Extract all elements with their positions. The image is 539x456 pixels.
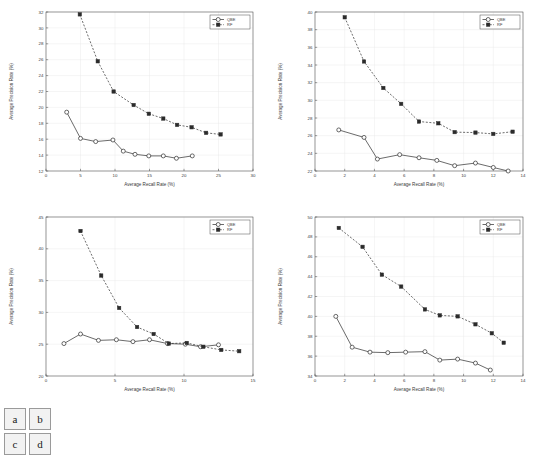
svg-text:32: 32 [39, 10, 44, 15]
svg-text:16: 16 [39, 137, 44, 142]
svg-text:12: 12 [491, 173, 496, 178]
svg-text:RF: RF [227, 227, 233, 232]
chart-panel-c: 051015202530354045Average Recall Rate (%… [0, 205, 269, 410]
svg-text:2: 2 [343, 378, 346, 383]
svg-text:Average Recall Rate (%): Average Recall Rate (%) [124, 182, 175, 187]
svg-text:15: 15 [147, 173, 152, 178]
svg-text:2: 2 [343, 173, 346, 178]
svg-text:38: 38 [308, 27, 313, 32]
panel-label-d: d [29, 433, 51, 455]
svg-text:8: 8 [433, 173, 436, 178]
svg-text:10: 10 [113, 173, 118, 178]
svg-text:40: 40 [39, 246, 44, 251]
svg-text:26: 26 [308, 133, 313, 138]
svg-text:22: 22 [39, 89, 44, 94]
svg-text:RF: RF [227, 22, 233, 27]
svg-text:28: 28 [39, 41, 44, 46]
svg-text:6: 6 [403, 173, 406, 178]
svg-text:0: 0 [314, 173, 317, 178]
svg-text:0: 0 [45, 173, 48, 178]
svg-text:RF: RF [497, 22, 503, 27]
svg-text:14: 14 [39, 153, 44, 158]
svg-text:4: 4 [373, 378, 376, 383]
svg-text:10: 10 [182, 378, 187, 383]
svg-text:6: 6 [403, 378, 406, 383]
svg-text:24: 24 [39, 73, 44, 78]
svg-text:40: 40 [308, 314, 313, 319]
svg-text:12: 12 [491, 378, 496, 383]
svg-text:8: 8 [433, 378, 436, 383]
svg-text:50: 50 [308, 215, 313, 220]
svg-text:48: 48 [308, 234, 313, 239]
svg-text:5: 5 [114, 378, 117, 383]
svg-text:0: 0 [314, 378, 317, 383]
chart-panel-a: 0510152025301214161820222426283032Averag… [0, 0, 269, 205]
svg-text:22: 22 [308, 169, 313, 174]
svg-text:10: 10 [461, 173, 466, 178]
panel-letter-labels: a b c d [4, 408, 49, 453]
svg-text:34: 34 [308, 374, 313, 379]
panel-label-c: c [4, 433, 26, 455]
svg-text:0: 0 [45, 378, 48, 383]
svg-text:36: 36 [308, 45, 313, 50]
figure-panel-grid: 0510152025301214161820222426283032Averag… [0, 0, 539, 410]
svg-text:30: 30 [251, 173, 256, 178]
svg-text:34: 34 [308, 63, 313, 68]
svg-text:Average Precision Rate (%): Average Precision Rate (%) [9, 63, 14, 120]
svg-text:Average Precision Rate (%): Average Precision Rate (%) [9, 268, 14, 325]
svg-text:10: 10 [461, 378, 466, 383]
svg-text:5: 5 [79, 173, 82, 178]
svg-text:38: 38 [308, 334, 313, 339]
svg-text:20: 20 [39, 105, 44, 110]
svg-text:28: 28 [308, 116, 313, 121]
svg-text:20: 20 [39, 374, 44, 379]
svg-text:26: 26 [39, 57, 44, 62]
chart-panel-d: 02468101214343638404244464850Average Rec… [269, 205, 539, 410]
svg-text:24: 24 [308, 151, 313, 156]
svg-text:4: 4 [373, 173, 376, 178]
svg-text:46: 46 [308, 254, 313, 259]
svg-text:44: 44 [308, 274, 313, 279]
svg-text:45: 45 [39, 215, 44, 220]
svg-text:40: 40 [308, 10, 313, 15]
svg-text:20: 20 [182, 173, 187, 178]
svg-text:15: 15 [251, 378, 256, 383]
svg-text:RF: RF [497, 227, 503, 232]
svg-text:30: 30 [308, 98, 313, 103]
svg-text:14: 14 [521, 173, 526, 178]
svg-text:30: 30 [39, 26, 44, 31]
svg-text:12: 12 [39, 169, 44, 174]
chart-panel-b: 0246810121422242628303234363840Average R… [269, 0, 539, 205]
svg-text:Average Recall Rate (%): Average Recall Rate (%) [124, 387, 175, 392]
svg-text:25: 25 [39, 342, 44, 347]
svg-text:35: 35 [39, 278, 44, 283]
svg-text:Average Precision Rate (%): Average Precision Rate (%) [278, 63, 283, 120]
svg-text:42: 42 [308, 294, 313, 299]
svg-text:18: 18 [39, 121, 44, 126]
svg-text:36: 36 [308, 354, 313, 359]
panel-label-b: b [29, 408, 51, 430]
panel-label-a: a [4, 408, 26, 430]
svg-text:Average Precision Rate (%): Average Precision Rate (%) [278, 268, 283, 325]
svg-text:Average Recall Rate (%): Average Recall Rate (%) [394, 387, 445, 392]
svg-text:30: 30 [39, 310, 44, 315]
svg-text:Average Recall Rate (%): Average Recall Rate (%) [394, 182, 445, 187]
svg-text:14: 14 [521, 378, 526, 383]
svg-text:25: 25 [216, 173, 221, 178]
svg-text:32: 32 [308, 80, 313, 85]
